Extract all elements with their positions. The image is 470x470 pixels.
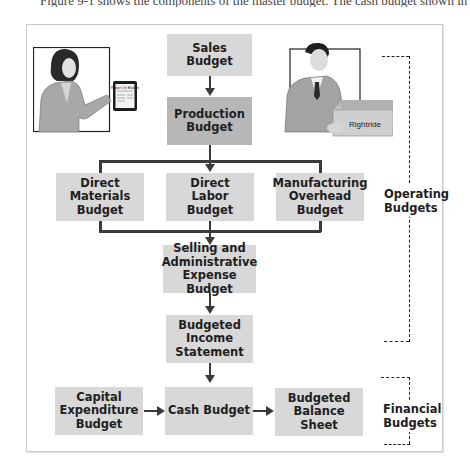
connector-branch-right-down (319, 160, 322, 173)
selling-admin-expense-budget-box: Selling and Administrative Expense Budge… (163, 245, 256, 293)
budgeted-balance-sheet-box: Budgeted Balance Sheet (275, 388, 363, 436)
arrow-right-icon (266, 406, 274, 416)
cash-budget-box: Cash Budget (165, 387, 253, 435)
page-caption: Figure 9-1 shows the components of the m… (40, 0, 470, 7)
box-label: Rightride (349, 120, 382, 129)
operating-budgets-label: Operating Budgets (384, 185, 436, 217)
arrow-down-icon (205, 164, 215, 172)
production-budget-box: Production Budget (167, 97, 252, 145)
arrow-right-icon (157, 406, 165, 416)
arrow-down-icon (205, 88, 215, 96)
direct-labor-budget-box: Direct Labor Budget (166, 173, 254, 221)
budgeted-income-statement-box: Budgeted Income Statement (166, 315, 253, 363)
financial-bracket-top (381, 377, 410, 378)
arrow-down-icon (205, 375, 215, 383)
direct-materials-budget-box: Direct Materials Budget (56, 173, 144, 221)
operating-bracket-bottom (384, 341, 409, 342)
connector-branch-left-down (99, 160, 102, 173)
manufacturing-overhead-budget-box: Manufacturing Overhead Budget (276, 173, 364, 221)
sales-budget-box: Sales Budget (167, 34, 252, 76)
capital-expenditure-budget-box: Capital Expenditure Budget (55, 387, 143, 435)
tablet-text: Report On Budget (111, 86, 139, 90)
woman-presenter-illustration: Report On Budget (33, 47, 153, 137)
man-with-box-illustration: Rightride (283, 40, 393, 140)
financial-bracket-bottom (384, 444, 410, 445)
financial-budgets-label: Financial Budgets (383, 400, 437, 432)
arrow-down-icon (205, 306, 215, 314)
operating-bracket-top (382, 56, 409, 57)
